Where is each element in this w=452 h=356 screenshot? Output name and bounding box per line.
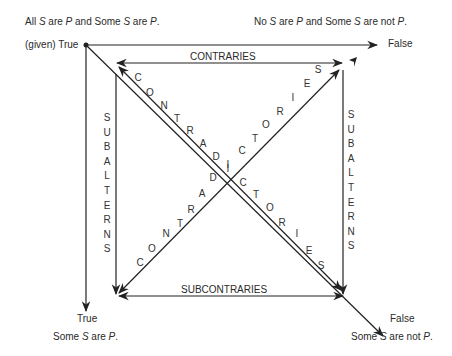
text-seg: are [46, 16, 66, 27]
text-seg: All [25, 16, 39, 27]
text-seg: are [89, 331, 109, 342]
letter: E [304, 78, 311, 89]
letter: R [187, 204, 194, 215]
letter: T [348, 181, 354, 196]
letter: O [262, 119, 270, 130]
text-seg: . [157, 16, 160, 27]
letter: C [239, 177, 246, 188]
stray-arrowhead-icon [349, 57, 357, 67]
letter: S [318, 260, 325, 271]
letter: R [186, 125, 193, 136]
text-seg: Some [53, 331, 82, 342]
letter: O [146, 87, 154, 98]
text-seg: . [404, 16, 407, 27]
letter: L [104, 169, 110, 184]
top-left-proposition: All S are P and Some S are P. [25, 16, 160, 27]
letter: C [136, 257, 143, 268]
contraries-label: CONTRARIES [190, 51, 256, 62]
letter: T [174, 113, 180, 124]
letter: O [148, 243, 156, 254]
letter: C [134, 72, 141, 83]
letter: R [103, 213, 110, 228]
var-s: S [380, 331, 387, 342]
text-seg: are [130, 16, 150, 27]
var-p: P [296, 16, 303, 27]
subalterns-left-label: SUBALTERNS [101, 111, 113, 257]
letter: A [199, 188, 206, 199]
contradictories-arrow-b [119, 70, 339, 293]
letter: R [276, 106, 283, 117]
given-point-dot [84, 43, 89, 48]
letter: A [348, 152, 355, 167]
letter: T [104, 184, 110, 199]
letter: B [104, 140, 111, 155]
letter: R [278, 217, 285, 228]
letter: N [347, 225, 354, 240]
var-s: S [39, 16, 46, 27]
letter: T [252, 133, 258, 144]
letter: S [104, 242, 111, 257]
var-p: P [423, 331, 430, 342]
top-left-truth-label: (given) True [25, 39, 78, 50]
letter: U [103, 126, 110, 141]
letter: C [238, 145, 245, 156]
letter: B [348, 137, 355, 152]
text-seg: . [115, 331, 118, 342]
letter: A [104, 155, 111, 170]
bottom-right-proposition: Some S are not P. [351, 331, 433, 342]
letter: I [227, 159, 230, 170]
text-seg: and Some [303, 16, 354, 27]
contradictories-arrow-a [119, 67, 341, 290]
subcontraries-label: SUBCONTRARIES [181, 284, 267, 295]
letter: S [348, 108, 355, 123]
letter: I [296, 228, 299, 239]
bottom-right-truth-label: False [390, 313, 414, 324]
letter: N [160, 100, 167, 111]
letter: L [348, 166, 354, 181]
text-seg: . [430, 331, 433, 342]
top-right-proposition: No S are P and Some S are not P. [254, 16, 407, 27]
text-seg: Some [351, 331, 380, 342]
letter: I [292, 92, 295, 103]
var-s: S [82, 331, 89, 342]
var-p: P [150, 16, 157, 27]
var-s: S [354, 16, 361, 27]
letter: T [253, 189, 259, 200]
letter: N [162, 228, 169, 239]
text-seg: and Some [72, 16, 123, 27]
letter: S [315, 64, 322, 75]
bottom-left-truth-label: True [77, 313, 97, 324]
text-seg: are not [361, 16, 398, 27]
letter: N [103, 228, 110, 243]
letter: E [306, 245, 313, 256]
letter: E [348, 196, 355, 211]
letter: D [212, 151, 219, 162]
letter: R [347, 210, 354, 225]
letter: U [347, 123, 354, 138]
letter: D [209, 172, 216, 183]
letter: S [348, 239, 355, 254]
top-right-truth-label: False [388, 38, 412, 49]
text-seg: are not [387, 331, 424, 342]
letter: O [266, 202, 274, 213]
letter: A [200, 138, 207, 149]
letter: E [104, 199, 111, 214]
letter: T [177, 218, 183, 229]
bottom-left-proposition: Some S are P. [53, 331, 118, 342]
letter: S [104, 111, 111, 126]
text-seg: are [276, 16, 296, 27]
text-seg: No [254, 16, 270, 27]
subalterns-right-label: SUBALTERNS [345, 108, 357, 254]
